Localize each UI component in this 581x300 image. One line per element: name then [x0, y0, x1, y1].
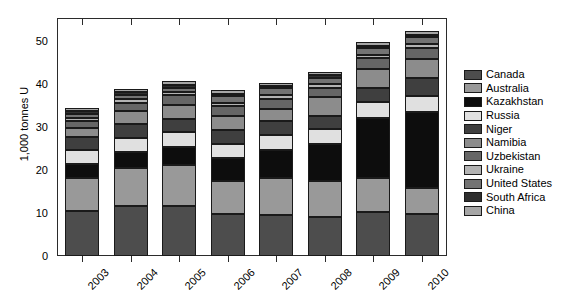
- bar-segment-ukraine: [259, 95, 293, 98]
- bar-segment-china: [405, 31, 439, 34]
- bar-segment-niger: [65, 137, 99, 150]
- bar-segment-russia: [162, 132, 196, 147]
- bar-segment-niger: [114, 124, 148, 138]
- bar-segment-namibia: [405, 59, 439, 78]
- bar-segment-namibia: [162, 105, 196, 118]
- bar-2003: [65, 108, 99, 256]
- bar-segment-russia: [405, 96, 439, 112]
- x-tick-label: 2003: [85, 266, 111, 292]
- legend-swatch: [464, 192, 482, 202]
- bar-2004: [114, 89, 148, 256]
- bar-segment-namibia: [308, 97, 342, 116]
- bar-segment-namibia: [114, 111, 148, 124]
- legend-swatch: [464, 83, 482, 93]
- bar-segment-south-africa: [308, 75, 342, 78]
- bar-segment-china: [356, 42, 390, 45]
- x-tick-mark: [325, 256, 326, 262]
- bar-segment-niger: [356, 88, 390, 102]
- bar-segment-kazakhstan: [65, 164, 99, 178]
- legend-swatch: [464, 70, 482, 80]
- bar-segment-south-africa: [65, 111, 99, 114]
- chart-legend: CanadaAustraliaKazakhstanRussiaNigerNami…: [464, 66, 576, 220]
- bar-segment-canada: [405, 214, 439, 256]
- legend-item-russia[interactable]: Russia: [464, 109, 576, 123]
- bar-segment-ukraine: [308, 84, 342, 87]
- bar-segment-uzbekistan: [65, 121, 99, 128]
- legend-label: Uzbekistan: [486, 151, 540, 162]
- bar-segment-russia: [308, 129, 342, 144]
- legend-label: Russia: [486, 110, 520, 121]
- bar-segment-russia: [259, 135, 293, 150]
- x-tick-mark: [179, 256, 180, 262]
- legend-item-south-africa[interactable]: South Africa: [464, 190, 576, 204]
- bar-segment-united-states: [259, 88, 293, 95]
- plot-area: [58, 19, 446, 256]
- legend-item-niger[interactable]: Niger: [464, 122, 576, 136]
- bar-segment-russia: [65, 150, 99, 164]
- legend-item-uzbekistan[interactable]: Uzbekistan: [464, 150, 576, 164]
- bar-segment-united-states: [405, 37, 439, 44]
- bar-segment-united-states: [308, 78, 342, 84]
- bar-2010: [405, 31, 439, 256]
- bar-segment-canada: [65, 211, 99, 256]
- bar-segment-russia: [356, 102, 390, 118]
- legend-label: Australia: [486, 83, 529, 94]
- bar-segment-australia: [405, 188, 439, 213]
- bar-segment-australia: [308, 181, 342, 217]
- legend-swatch: [464, 97, 482, 107]
- bar-segment-namibia: [211, 116, 245, 129]
- legend-item-ukraine[interactable]: Ukraine: [464, 163, 576, 177]
- bar-segment-ukraine: [211, 103, 245, 106]
- bar-segment-ukraine: [356, 55, 390, 58]
- bar-2008: [308, 72, 342, 256]
- bar-2009: [356, 42, 390, 256]
- bar-segment-niger: [259, 121, 293, 135]
- bar-segment-china: [259, 83, 293, 86]
- legend-label: Kazakhstan: [486, 96, 543, 107]
- y-tick-label: 40: [8, 78, 48, 90]
- x-tick-mark-top: [422, 19, 423, 25]
- legend-item-canada[interactable]: Canada: [464, 68, 576, 82]
- bar-segment-kazakhstan: [308, 144, 342, 181]
- bar-segment-russia: [114, 138, 148, 152]
- bar-segment-united-states: [162, 88, 196, 92]
- bar-segment-kazakhstan: [162, 147, 196, 166]
- x-tick-mark: [422, 256, 423, 262]
- y-tick-label: 20: [8, 164, 48, 176]
- bar-segment-south-africa: [114, 92, 148, 95]
- bar-segment-uzbekistan: [259, 99, 293, 109]
- legend-item-united-states[interactable]: United States: [464, 177, 576, 191]
- x-tick-mark-top: [179, 19, 180, 25]
- bar-segment-south-africa: [405, 35, 439, 38]
- bar-segment-uzbekistan: [356, 58, 390, 68]
- bar-segment-uzbekistan: [114, 103, 148, 112]
- bar-segment-namibia: [259, 109, 293, 121]
- bar-segment-canada: [308, 217, 342, 256]
- legend-item-china[interactable]: China: [464, 204, 576, 218]
- bar-segment-niger: [211, 130, 245, 145]
- legend-label: Niger: [486, 124, 512, 135]
- legend-item-australia[interactable]: Australia: [464, 82, 576, 96]
- legend-swatch: [464, 179, 482, 189]
- bar-segment-australia: [65, 178, 99, 211]
- x-tick-mark-top: [228, 19, 229, 25]
- x-tick-label: 2009: [376, 266, 402, 292]
- bar-segment-uzbekistan: [308, 88, 342, 98]
- legend-item-namibia[interactable]: Namibia: [464, 136, 576, 150]
- legend-swatch: [464, 165, 482, 175]
- bar-2005: [162, 81, 196, 256]
- x-tick-mark: [228, 256, 229, 262]
- legend-swatch: [464, 206, 482, 216]
- x-tick-label: 2007: [279, 266, 305, 292]
- bar-segment-united-states: [114, 95, 148, 99]
- bar-segment-china: [65, 108, 99, 111]
- bar-segment-namibia: [356, 69, 390, 89]
- bar-segment-united-states: [65, 114, 99, 117]
- bar-segment-kazakhstan: [356, 118, 390, 178]
- x-tick-mark: [131, 256, 132, 262]
- x-tick-mark-top: [373, 19, 374, 25]
- x-tick-label: 2010: [425, 266, 451, 292]
- bar-segment-kazakhstan: [114, 152, 148, 168]
- legend-item-kazakhstan[interactable]: Kazakhstan: [464, 95, 576, 109]
- bar-segment-kazakhstan: [405, 112, 439, 189]
